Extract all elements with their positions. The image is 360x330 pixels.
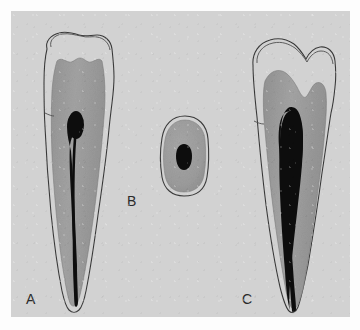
specimen-a-pulp-chamber [68, 111, 84, 139]
specimen-label-b: B [127, 194, 137, 208]
specimen-label-c: C [242, 292, 253, 306]
specimen-a-apical-foramen [75, 265, 76, 306]
specimen-c-tooth-longitudinal-section [230, 21, 350, 317]
specimen-label-a: A [26, 292, 36, 306]
photographic-plate: A B C [11, 11, 350, 317]
specimen-a-tooth-longitudinal-section [21, 15, 141, 315]
specimen-c-cementoenamel-junction [254, 121, 264, 124]
specimen-a-dentin [51, 58, 105, 306]
specimen-b-pulp-canal [176, 144, 192, 170]
figure-root: A B C [0, 0, 360, 330]
specimen-c-enamel-highlight-edge [257, 42, 333, 64]
specimen-a-enamel-highlight-edge [51, 34, 110, 50]
specimen-b-root-cross-section [145, 109, 231, 209]
